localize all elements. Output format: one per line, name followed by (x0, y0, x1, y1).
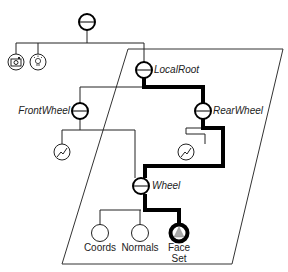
rear-engraving-node[interactable] (178, 144, 194, 160)
normals-label: Normals (121, 242, 158, 253)
face-set-label-line1: Face (168, 242, 191, 253)
coords-node[interactable] (92, 225, 109, 242)
light-node[interactable] (30, 54, 46, 70)
scene-graph-diagram: LocalRoot FrontWheel RearWheel Wheel Coo… (0, 0, 288, 272)
root-separator-node[interactable] (79, 14, 95, 30)
coords-label: Coords (84, 242, 116, 253)
rear-wheel-label: RearWheel (213, 105, 264, 116)
normals-node[interactable] (132, 225, 149, 242)
wheel-node[interactable] (133, 178, 149, 194)
front-wheel-label: FrontWheel (18, 105, 70, 116)
face-set-label-line2: Set (171, 253, 186, 264)
face-set-node[interactable] (171, 225, 188, 242)
camera-node[interactable] (8, 54, 24, 70)
local-root-node[interactable] (136, 62, 152, 78)
local-root-label: LocalRoot (154, 64, 200, 75)
front-engraving-node[interactable] (54, 144, 70, 160)
rear-wheel-node[interactable] (195, 103, 211, 119)
front-wheel-node[interactable] (72, 103, 88, 119)
wheel-label: Wheel (152, 180, 181, 191)
